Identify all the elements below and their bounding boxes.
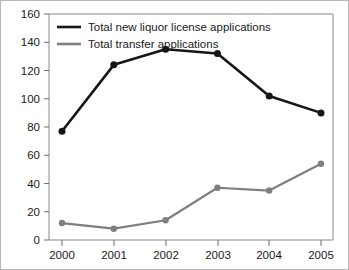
data-point xyxy=(214,50,221,57)
x-tick-label-2002: 2002 xyxy=(153,249,179,261)
y-tick-label-120: 120 xyxy=(21,65,40,77)
data-point xyxy=(266,92,273,99)
y-axis-ticks xyxy=(44,14,49,240)
data-series-layer xyxy=(59,46,325,232)
legend-label-series-2: Total transfer applications xyxy=(88,38,219,50)
legend-label-series-1: Total new liquor license applications xyxy=(88,21,271,33)
y-tick-label-140: 140 xyxy=(21,36,40,48)
x-tick-label-2001: 2001 xyxy=(101,249,127,261)
series-line-2 xyxy=(62,164,321,229)
y-tick-label-160: 160 xyxy=(21,8,40,20)
data-point xyxy=(318,109,325,116)
y-tick-label-80: 80 xyxy=(27,121,40,133)
data-point xyxy=(214,185,220,191)
series-line-1 xyxy=(62,49,321,131)
y-axis-tick-labels: 160 140 120 100 80 60 40 20 0 xyxy=(21,8,40,246)
y-tick-label-40: 40 xyxy=(27,178,40,190)
data-point xyxy=(162,217,168,223)
data-point xyxy=(59,128,66,135)
chart-legend: Total new liquor license applications To… xyxy=(57,21,271,50)
data-point xyxy=(59,220,65,226)
data-point xyxy=(266,187,272,193)
x-tick-label-2005: 2005 xyxy=(308,249,334,261)
line-chart: 160 140 120 100 80 60 40 20 0 xyxy=(1,1,348,269)
series-1 xyxy=(59,46,325,135)
y-tick-label-20: 20 xyxy=(27,206,40,218)
x-tick-label-2000: 2000 xyxy=(49,249,75,261)
data-point xyxy=(110,61,117,68)
data-point xyxy=(318,161,324,167)
series-2 xyxy=(59,161,324,232)
x-axis-ticks xyxy=(62,240,321,246)
x-tick-label-2004: 2004 xyxy=(256,249,282,261)
y-tick-label-60: 60 xyxy=(27,149,40,161)
y-tick-label-100: 100 xyxy=(21,93,40,105)
chart-screenshot: 160 140 120 100 80 60 40 20 0 xyxy=(0,0,349,270)
x-axis-tick-labels: 2000 2001 2002 2003 2004 2005 xyxy=(49,249,334,261)
y-tick-label-0: 0 xyxy=(34,234,40,246)
x-tick-label-2003: 2003 xyxy=(205,249,231,261)
data-point xyxy=(111,226,117,232)
